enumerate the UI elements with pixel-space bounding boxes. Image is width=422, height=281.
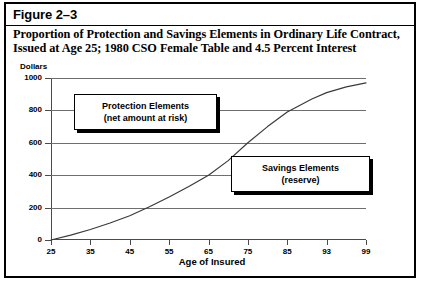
figure-number: Figure 2–3 [13, 7, 77, 22]
figure-container: Figure 2–3 Proportion of Protection and … [4, 2, 416, 278]
x-tick-mark [327, 240, 328, 245]
y-tick-label: 800 [29, 105, 42, 114]
x-tick-label: 35 [86, 247, 95, 256]
x-tick-label: 85 [283, 247, 292, 256]
callout-savings-line-2: (reserve) [240, 174, 361, 186]
y-tick-label: 600 [29, 138, 42, 147]
x-tick-mark [209, 240, 210, 245]
figure-title: Proportion of Protection and Savings Ele… [13, 28, 411, 55]
figure-title-line-1: Proportion of Protection and Savings Ele… [13, 28, 411, 42]
y-tick-label: 200 [29, 203, 42, 212]
x-tick-label: 55 [165, 247, 174, 256]
y-tick-label: 1000 [24, 73, 42, 82]
x-tick-mark [90, 240, 91, 245]
x-tick-label: 25 [47, 247, 56, 256]
x-axis-label: Age of Insured [6, 256, 418, 267]
callout-protection-line-1: Protection Elements [83, 100, 208, 112]
x-tick-label: 93 [322, 247, 331, 256]
x-tick-label: 45 [125, 247, 134, 256]
callout-savings-line-1: Savings Elements [240, 162, 361, 174]
x-tick-mark [287, 240, 288, 245]
y-tick-label: 400 [29, 170, 42, 179]
figure-title-line-2: Issued at Age 25; 1980 CSO Female Table … [13, 42, 411, 56]
callout-protection-elements: Protection Elements (net amount at risk) [74, 94, 217, 130]
x-tick-label: 99 [362, 247, 371, 256]
x-tick-mark [51, 240, 52, 245]
x-tick-mark [130, 240, 131, 245]
y-axis-label: Dollars [20, 62, 47, 71]
x-tick-mark [248, 240, 249, 245]
y-tick-label: 0 [38, 235, 42, 244]
x-tick-mark [169, 240, 170, 245]
callout-savings-elements: Savings Elements (reserve) [231, 156, 370, 192]
x-tick-mark [366, 240, 367, 245]
x-tick-label: 65 [204, 247, 213, 256]
callout-protection-line-2: (net amount at risk) [83, 112, 208, 124]
x-tick-label: 75 [243, 247, 252, 256]
figure-label-bar: Figure 2–3 [6, 4, 414, 26]
